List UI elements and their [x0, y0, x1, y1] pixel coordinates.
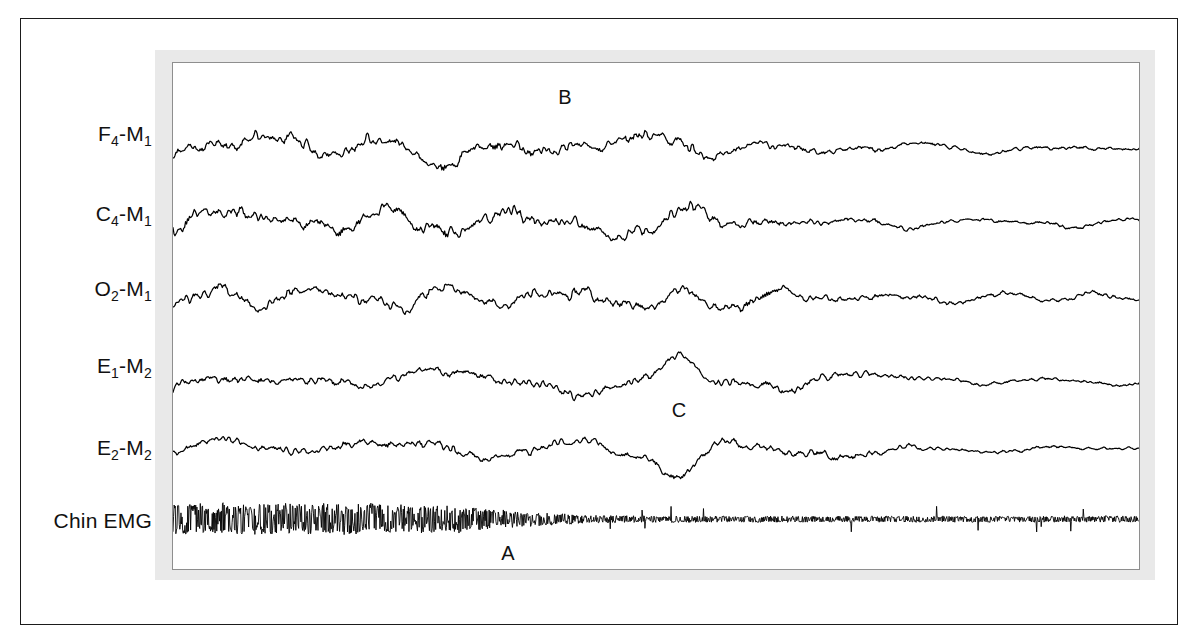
annotation-label-c: C	[672, 400, 686, 420]
trace-chinemg	[173, 503, 1139, 535]
trace-c4m1	[173, 201, 1139, 240]
channel-label-o2m1: O2-M1	[0, 278, 152, 299]
trace-e2m2	[173, 437, 1139, 479]
channel-label-e2m2: E2-M2	[0, 437, 152, 458]
channel-label-e1m2: E1-M2	[0, 355, 152, 376]
trace-f4m1	[173, 130, 1139, 170]
channel-label-chinemg: Chin EMG	[0, 510, 152, 531]
eeg-trace-svg	[173, 63, 1139, 569]
trace-e1m2	[173, 352, 1139, 401]
trace-o2m1	[173, 284, 1139, 314]
polysomnogram-chart-panel	[172, 62, 1140, 570]
channel-label-f4m1: F4-M1	[0, 123, 152, 144]
annotation-label-b: B	[558, 87, 571, 107]
annotation-label-a: A	[501, 543, 514, 563]
channel-label-c4m1: C4-M1	[0, 203, 152, 224]
figure-root: F4-M1C4-M1O2-M1E1-M2E2-M2Chin EMG BCA	[0, 0, 1190, 640]
